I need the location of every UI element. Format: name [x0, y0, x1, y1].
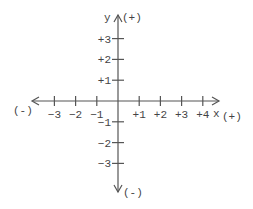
- y-axis-positive-label: (+): [122, 12, 142, 24]
- x-axis-negative-label: (-): [13, 105, 33, 117]
- x-tick-label: +3: [175, 109, 188, 121]
- y-tick-label: +1: [98, 75, 112, 87]
- x-tick-label: −3: [48, 109, 61, 121]
- y-tick-label: −2: [98, 138, 111, 150]
- y-tick-label: +2: [98, 54, 111, 66]
- coordinate-axes-diagram: −3−2−1+1+2+3+4 x (+) (-) +3+2+1−1−2−3 y …: [0, 0, 253, 209]
- x-tick-label: +2: [154, 109, 167, 121]
- y-tick-label: −3: [98, 158, 111, 170]
- x-tick-label: +4: [196, 109, 210, 121]
- y-tick-label: −1: [98, 117, 112, 129]
- y-axis-negative-label: (-): [123, 187, 143, 199]
- x-axis-positive-label: (+): [222, 111, 242, 123]
- x-axis-name: x: [213, 108, 220, 120]
- x-tick-label: +1: [133, 109, 147, 121]
- y-tick-label: +3: [98, 34, 111, 46]
- x-tick-label: −2: [69, 109, 82, 121]
- x-axis: −3−2−1+1+2+3+4 x (+) (-): [13, 96, 242, 123]
- y-axis: +3+2+1−1−2−3 y (+) (-): [98, 12, 143, 199]
- y-axis-name: y: [104, 12, 111, 24]
